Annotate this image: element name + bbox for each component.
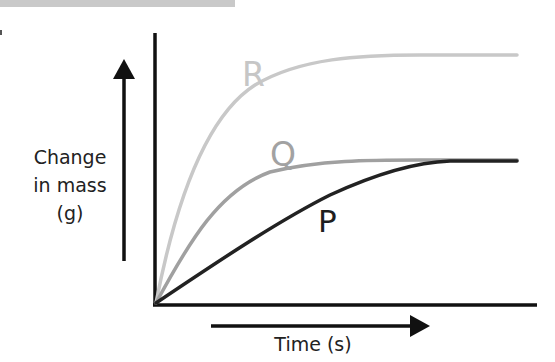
y-axis-label-line-2: in mass <box>20 171 120 199</box>
curve-label-p: P <box>318 203 337 239</box>
x-axis-label: Time (s) <box>258 332 368 356</box>
curve-label-r: R <box>242 57 265 93</box>
curve-label-q: Q <box>270 137 296 173</box>
y-axis-label-line-1: Change <box>20 143 120 171</box>
y-axis-label: Change in mass (g) <box>20 143 120 227</box>
y-axis-label-line-3: (g) <box>20 199 120 227</box>
